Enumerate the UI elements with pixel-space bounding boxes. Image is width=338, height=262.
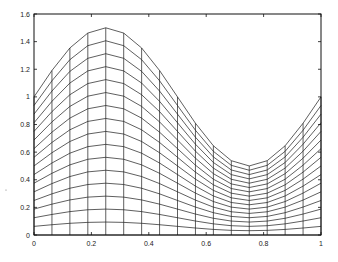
y-tick-label: 1.2	[20, 66, 30, 73]
y-tick-label: 0.2	[20, 204, 30, 211]
y-tick-label: 0	[26, 232, 30, 239]
x-tick-label: 1	[319, 240, 323, 247]
stray-mark	[5, 189, 6, 190]
y-tick-label: 0.4	[20, 176, 30, 183]
y-tick-label: 0.6	[20, 149, 30, 156]
x-tick-label: 0.6	[201, 240, 211, 247]
y-tick-label: 1	[26, 93, 30, 100]
line-chart: 00.20.40.60.81 00.20.40.60.811.21.41.6	[0, 0, 338, 262]
x-tick-label: 0.4	[144, 240, 154, 247]
x-tick-label: 0.8	[259, 240, 269, 247]
x-tick-label: 0	[32, 240, 36, 247]
y-tick-label: 1.4	[20, 38, 30, 45]
y-tick-label: 0.8	[20, 121, 30, 128]
x-tick-label: 0.2	[87, 240, 97, 247]
y-tick-label: 1.6	[20, 11, 30, 18]
